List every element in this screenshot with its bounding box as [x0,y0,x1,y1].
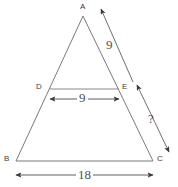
vertex-label-A: A [80,3,85,11]
measure-label-BC: 18 [76,168,93,181]
dimension-arrows [16,9,169,175]
geometry-diagram: A B C D E 9 9 ? 18 [0,0,178,187]
vertex-label-B: B [4,155,9,163]
measure-label-EC: ? [148,112,154,125]
measure-label-AE: 9 [106,38,113,51]
vertex-label-C: C [157,155,163,163]
vertex-label-D: D [36,83,42,91]
vertex-label-E: E [122,83,127,91]
measure-label-DE: 9 [77,91,88,104]
diagram-canvas [0,0,178,187]
